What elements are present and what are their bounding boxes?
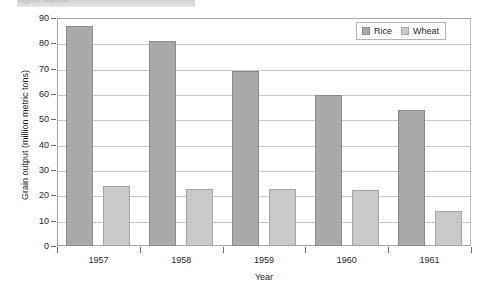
x-tick-label-1959: 1959	[229, 255, 299, 265]
bar-wheat-1960	[352, 190, 379, 246]
x-tick-mark	[57, 247, 58, 253]
gridline	[58, 70, 470, 71]
legend-entry-rice: Rice	[362, 26, 392, 36]
y-tick-label: 90	[19, 13, 49, 23]
y-tick-label: 40	[19, 140, 49, 150]
x-tick-mark	[471, 247, 472, 253]
x-tick-mark	[140, 247, 141, 253]
gridline	[58, 44, 470, 45]
bar-rice-1961	[398, 110, 425, 246]
y-tick-label: 30	[19, 165, 49, 175]
y-tick-mark	[51, 69, 56, 70]
bar-rice-1958	[149, 41, 176, 246]
y-tick-mark	[51, 119, 56, 120]
gridline	[58, 95, 470, 96]
legend-label: Wheat	[413, 26, 439, 36]
x-tick-label-1957: 1957	[63, 255, 133, 265]
x-tick-label-1958: 1958	[146, 255, 216, 265]
bar-wheat-1957	[103, 186, 130, 246]
legend-swatch-rice-icon	[362, 27, 370, 35]
header-ghost-label: figure caption	[17, 0, 195, 4]
bar-rice-1957	[66, 26, 93, 246]
y-tick-mark	[51, 195, 56, 196]
y-tick-mark	[51, 246, 56, 247]
bar-rice-1959	[232, 71, 259, 246]
y-tick-label: 0	[19, 241, 49, 251]
x-tick-mark	[388, 247, 389, 253]
y-tick-mark	[51, 145, 56, 146]
y-tick-label: 10	[19, 216, 49, 226]
y-tick-label: 70	[19, 64, 49, 74]
legend-entry-wheat: Wheat	[401, 26, 439, 36]
y-tick-mark	[51, 170, 56, 171]
x-tick-mark	[305, 247, 306, 253]
bar-wheat-1958	[186, 189, 213, 246]
x-tick-mark	[223, 247, 224, 253]
y-tick-mark	[51, 43, 56, 44]
x-axis-title: Year	[57, 272, 471, 282]
bar-rice-1960	[315, 95, 342, 246]
y-tick-label: 20	[19, 190, 49, 200]
y-tick-mark	[51, 18, 56, 19]
chart-legend: RiceWheat	[356, 22, 446, 40]
grain-output-bar-chart: Grain output (million metric tons) 01020…	[0, 10, 486, 302]
y-tick-label: 60	[19, 89, 49, 99]
bar-wheat-1961	[435, 211, 462, 246]
legend-label: Rice	[374, 26, 392, 36]
legend-swatch-wheat-icon	[401, 27, 409, 35]
y-tick-mark	[51, 94, 56, 95]
x-tick-label-1961: 1961	[395, 255, 465, 265]
y-tick-label: 80	[19, 38, 49, 48]
y-axis-title: Grain output (million metric tons)	[20, 30, 30, 240]
y-tick-mark	[51, 221, 56, 222]
cropped-header-bar: figure caption	[17, 0, 195, 7]
x-tick-label-1960: 1960	[312, 255, 382, 265]
y-tick-label: 50	[19, 114, 49, 124]
bar-wheat-1959	[269, 189, 296, 246]
